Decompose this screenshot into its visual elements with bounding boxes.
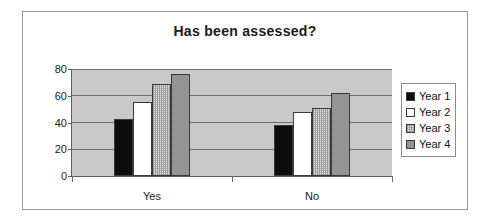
y-axis-tick-label: 0 <box>61 170 67 182</box>
legend-swatch-icon <box>406 92 415 101</box>
bar-yes-year-2 <box>133 102 152 176</box>
legend-item-year-4[interactable]: Year 4 <box>406 136 450 152</box>
y-axis-tick-label: 20 <box>55 143 67 155</box>
legend-swatch-icon <box>406 108 415 117</box>
y-axis-tick-label: 40 <box>55 117 67 129</box>
legend-item-label: Year 4 <box>419 138 450 150</box>
bar-no-year-4 <box>331 93 350 176</box>
chart-legend: Year 1Year 2Year 3Year 4 <box>401 83 456 157</box>
chart-title: Has been assessed? <box>23 23 467 39</box>
bar-no-year-1 <box>274 125 293 176</box>
legend-item-year-1[interactable]: Year 1 <box>406 88 450 104</box>
gridline <box>72 69 392 70</box>
legend-item-label: Year 3 <box>419 122 450 134</box>
legend-item-year-2[interactable]: Year 2 <box>406 104 450 120</box>
x-axis-tick-mark <box>392 176 393 182</box>
bar-yes-year-4 <box>171 74 190 176</box>
bar-yes-year-3 <box>152 84 171 176</box>
y-axis-tick-label: 60 <box>55 90 67 102</box>
legend-item-label: Year 2 <box>419 106 450 118</box>
y-axis-tick-mark <box>68 69 72 70</box>
y-axis-tick-mark <box>68 96 72 97</box>
x-axis-tick-mark <box>232 176 233 182</box>
legend-swatch-icon <box>406 140 415 149</box>
y-axis-tick-label: 80 <box>55 63 67 75</box>
x-axis-category-label: Yes <box>143 190 161 202</box>
y-axis-tick-mark <box>68 123 72 124</box>
x-axis-tick-mark <box>72 176 73 182</box>
legend-item-label: Year 1 <box>419 90 450 102</box>
plot-area: 020406080YesNo <box>71 69 392 177</box>
y-axis-tick-mark <box>68 149 72 150</box>
legend-item-year-3[interactable]: Year 3 <box>406 120 450 136</box>
legend-swatch-icon <box>406 124 415 133</box>
bar-no-year-3 <box>312 108 331 176</box>
chart-figure: Has been assessed? 020406080YesNo Year 1… <box>22 11 468 210</box>
x-axis-category-label: No <box>305 190 319 202</box>
bar-yes-year-1 <box>114 119 133 177</box>
bar-no-year-2 <box>293 112 312 176</box>
